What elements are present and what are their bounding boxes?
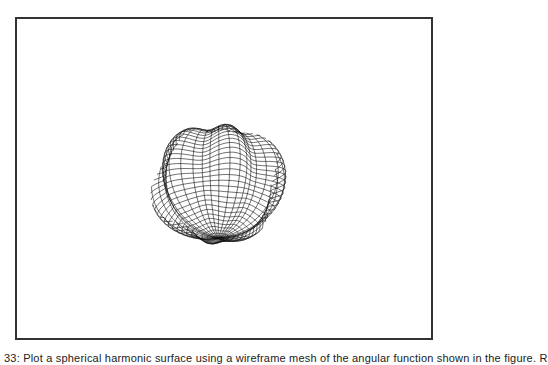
mesh-line [218, 128, 247, 238]
mesh-line [164, 195, 271, 229]
mesh-line [218, 126, 219, 238]
figure-caption: 33: Plot a spherical harmonic surface us… [4, 351, 450, 365]
mesh-line [167, 135, 278, 160]
mesh-line [158, 186, 279, 218]
mesh-line [151, 163, 286, 193]
wireframe-mesh [151, 124, 287, 244]
